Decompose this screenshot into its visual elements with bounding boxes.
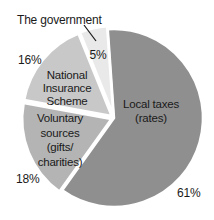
- pct-label-national-insurance: 16%: [18, 53, 41, 67]
- label-the-government: The government: [17, 14, 102, 27]
- pct-label-government: 5%: [83, 48, 113, 62]
- label-line: Local taxes: [106, 98, 196, 112]
- label-local-taxes: Local taxes (rates): [106, 98, 196, 125]
- label-national-insurance-scheme: National Insurance Scheme: [22, 69, 112, 108]
- label-line: sources: [15, 126, 105, 141]
- label-line: Insurance: [22, 82, 112, 95]
- label-line: Voluntary: [15, 111, 105, 126]
- label-line: National: [22, 69, 112, 82]
- label-line: (gifts/: [15, 140, 105, 155]
- label-line: charities): [15, 155, 105, 170]
- label-line: Scheme: [22, 95, 112, 108]
- pct-label-voluntary: 18%: [16, 172, 39, 186]
- label-line: (rates): [106, 112, 196, 126]
- pie-chart-figure: The government 5% 16% National Insurance…: [0, 0, 214, 220]
- pct-label-local-taxes: 61%: [177, 186, 200, 200]
- label-voluntary-sources: Voluntary sources (gifts/ charities): [15, 111, 105, 169]
